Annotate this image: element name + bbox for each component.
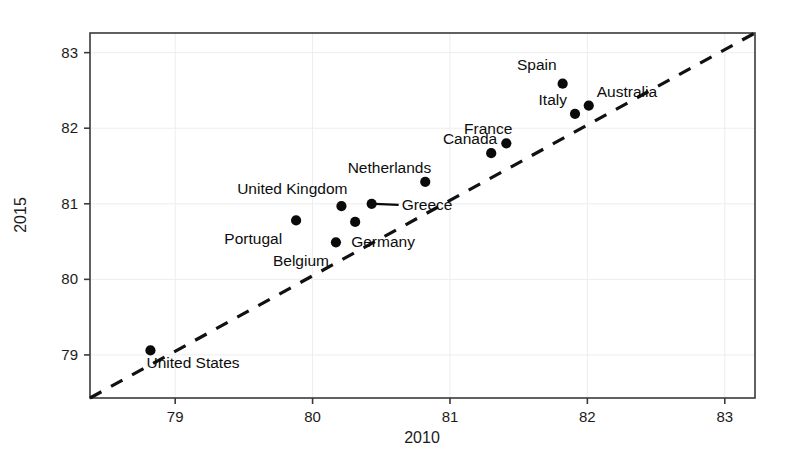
data-point-label: Netherlands <box>348 159 432 176</box>
x-tick-label: 81 <box>442 408 459 425</box>
data-point <box>486 148 496 158</box>
data-point <box>501 138 511 148</box>
data-point-label: Belgium <box>273 252 329 269</box>
data-point-label: Germany <box>351 233 415 250</box>
y-tick-label: 79 <box>61 346 78 363</box>
data-point-label: United States <box>146 354 239 371</box>
plot-canvas: 79808182837980818283 United StatesPortug… <box>0 0 796 471</box>
y-tick-label: 81 <box>61 195 78 212</box>
data-point-label: Italy <box>539 91 568 108</box>
x-tick-label: 80 <box>304 408 321 425</box>
x-tick-label: 82 <box>579 408 596 425</box>
leader-line <box>375 204 399 205</box>
y-tick-label: 82 <box>61 119 78 136</box>
data-point <box>291 215 301 225</box>
x-tick-label: 79 <box>167 408 184 425</box>
data-points <box>145 79 593 356</box>
data-point <box>584 100 594 110</box>
data-point <box>336 201 346 211</box>
data-point <box>570 109 580 119</box>
data-point-label: Greece <box>402 196 453 213</box>
data-point-label: Australia <box>597 83 658 100</box>
y-tick-label: 83 <box>61 44 78 61</box>
data-point <box>350 217 360 227</box>
label-leader-lines <box>375 204 399 205</box>
data-point-label: France <box>464 120 512 137</box>
x-axis-title: 2010 <box>404 429 440 446</box>
data-point <box>558 79 568 89</box>
data-point <box>367 199 377 209</box>
data-point-label: Spain <box>517 56 557 73</box>
data-point <box>331 237 341 247</box>
x-tick-label: 83 <box>716 408 733 425</box>
data-point <box>420 177 430 187</box>
data-point-label: United Kingdom <box>237 180 347 197</box>
data-point-label: Portugal <box>224 230 282 247</box>
y-axis-title: 2015 <box>12 197 29 233</box>
scatter-plot-figure: 79808182837980818283 United StatesPortug… <box>0 0 796 471</box>
y-tick-label: 80 <box>61 270 78 287</box>
